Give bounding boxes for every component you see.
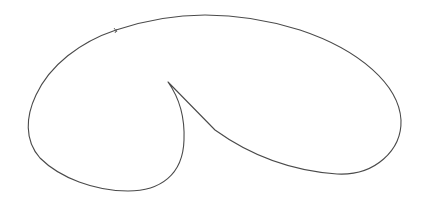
drawing-canvas	[0, 0, 422, 204]
blob-outline	[28, 15, 401, 191]
outline-drawing	[0, 0, 422, 204]
